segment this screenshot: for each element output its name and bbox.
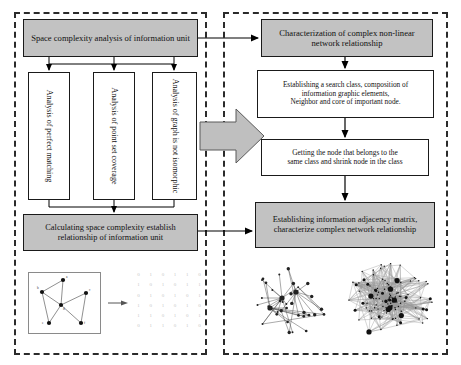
matrix-row: 010110 xyxy=(133,272,205,282)
getting-node-line-1: Getting the node that belongs to the xyxy=(292,148,398,157)
matrix-cell: 0 xyxy=(133,323,144,333)
sparse-network-graph-illustration xyxy=(250,262,333,338)
svg-text:c: c xyxy=(89,288,91,292)
box-establishing-search-class: Establishing a search class, composition… xyxy=(257,70,434,118)
matrix-cell: 1 xyxy=(182,323,193,333)
matrix-cell: 0 xyxy=(170,282,181,292)
sample-graph-illustration: a b c d e f xyxy=(28,272,101,334)
matrix-cell: 1 xyxy=(145,323,156,333)
matrix-cell: 0 xyxy=(170,303,181,313)
matrix-cell: 1 xyxy=(145,293,156,303)
box-characterization-network-label: Characterization of complex non-linear n… xyxy=(262,28,432,48)
matrix-cell: 1 xyxy=(182,303,193,313)
matrix-cell: 1 xyxy=(133,313,144,323)
matrix-cell: 1 xyxy=(170,313,181,323)
matrix-cell: 1 xyxy=(133,282,144,292)
matrix-row: 010101 xyxy=(133,293,205,303)
box-space-complexity-label: Space complexity analysis of information… xyxy=(27,33,194,43)
matrix-cell: 0 xyxy=(194,303,205,313)
matrix-cell: 0 xyxy=(145,303,156,313)
matrix-cell: 0 xyxy=(157,293,168,303)
matrix-cell: 1 xyxy=(170,272,181,282)
box-analysis-perfect-matching: Analysis of perfect matching xyxy=(28,72,70,200)
box-getting-node-same-class-label: Getting the node that belongs to the sam… xyxy=(283,149,406,166)
box-analysis-graph-isomorphic: Analysis of graph is not isomorphic xyxy=(152,72,197,200)
box-calculating-space-complexity-label: Calculating space complexity establish r… xyxy=(24,223,197,243)
matrix-row: 101010 xyxy=(133,303,205,313)
box-analysis-point-set-coverage: Analysis of point set coverage xyxy=(93,72,135,200)
matrix-cell: 1 xyxy=(145,313,156,323)
box-analysis-perfect-matching-label: Analysis of perfect matching xyxy=(44,90,54,183)
matrix-cell: 1 xyxy=(182,282,193,292)
matrix-cell: 0 xyxy=(194,272,205,282)
matrix-cell: 1 xyxy=(145,272,156,282)
matrix-cell: 1 xyxy=(133,303,144,313)
matrix-cell: 0 xyxy=(194,323,205,333)
matrix-cell: 0 xyxy=(145,282,156,292)
matrix-cell: 0 xyxy=(170,323,181,333)
matrix-cell: 1 xyxy=(194,313,205,323)
box-space-complexity-analysis: Space complexity analysis of information… xyxy=(23,19,198,57)
matrix-row: 011010 xyxy=(133,323,205,333)
sample-graph-svg: a b c d e f xyxy=(29,273,100,333)
box-analysis-graph-isomorphic-label: Analysis of graph is not isomorphic xyxy=(169,76,179,196)
box-analysis-point-set-coverage-label: Analysis of point set coverage xyxy=(109,88,119,185)
svg-text:b: b xyxy=(37,286,39,290)
matrix-row: 101011 xyxy=(133,282,205,292)
matrix-cell: 1 xyxy=(194,282,205,292)
svg-text:a: a xyxy=(66,275,68,279)
matrix-cell: 1 xyxy=(182,272,193,282)
left-to-right-block-arrow xyxy=(198,105,266,167)
matrix-cell: 1 xyxy=(157,282,168,292)
flowchart-diagram: Space complexity analysis of information… xyxy=(0,0,461,365)
graph-to-matrix-arrow xyxy=(108,299,128,307)
getting-node-line-2: same class and shrink node in the class xyxy=(287,157,402,166)
matrix-row: 110101 xyxy=(133,313,205,323)
adjacency-matrix-illustration: 010110101011010101101010110101011010 xyxy=(133,272,205,334)
svg-text:f: f xyxy=(84,321,86,325)
search-class-line-3: Neighbor and core of important node. xyxy=(290,97,400,106)
box-establishing-adjacency-matrix-label: Establishing information adjacency matri… xyxy=(256,215,434,235)
svg-text:d: d xyxy=(63,307,65,311)
box-calculating-space-complexity: Calculating space complexity establish r… xyxy=(23,214,198,251)
matrix-cell: 0 xyxy=(182,313,193,323)
matrix-cell: 0 xyxy=(133,272,144,282)
box-establishing-adjacency-matrix: Establishing information adjacency matri… xyxy=(255,202,435,248)
svg-text:e: e xyxy=(42,321,44,325)
matrix-cell: 0 xyxy=(157,272,168,282)
matrix-cell: 1 xyxy=(157,323,168,333)
box-characterization-network: Characterization of complex non-linear n… xyxy=(261,19,433,57)
matrix-cell: 0 xyxy=(133,293,144,303)
matrix-cell: 0 xyxy=(157,313,168,323)
matrix-cell: 1 xyxy=(170,293,181,303)
matrix-cell: 0 xyxy=(182,293,193,303)
matrix-cell: 1 xyxy=(194,293,205,303)
dense-network-graph-illustration xyxy=(340,258,440,342)
matrix-cell: 1 xyxy=(157,303,168,313)
box-getting-node-same-class: Getting the node that belongs to the sam… xyxy=(261,139,429,176)
box-establishing-search-class-label: Establishing a search class, composition… xyxy=(279,81,412,107)
